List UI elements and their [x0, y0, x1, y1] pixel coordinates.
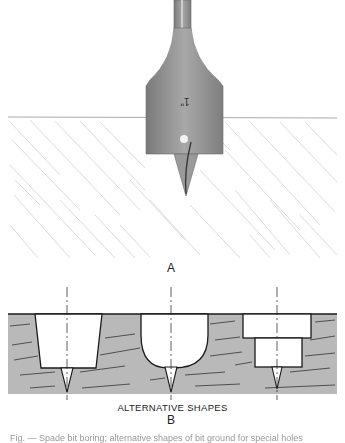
blade-marking: 1" [180, 96, 190, 107]
label-b: B [162, 413, 180, 427]
spade-bit: 1" [146, 0, 223, 196]
figure-caption: Fig. — Spade bit boring; alternative sha… [10, 433, 340, 443]
diagram-canvas: 1" [0, 0, 345, 443]
label-alternative-shapes: ALTERNATIVE SHAPES [100, 402, 245, 413]
label-a: A [162, 261, 180, 275]
bit-hole [180, 135, 188, 143]
